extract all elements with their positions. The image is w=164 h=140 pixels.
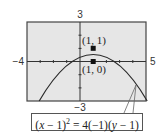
vertex-label: (1, 1) <box>82 34 106 47</box>
ymin-label: −3 <box>74 102 86 113</box>
xmax-label: 5 <box>150 56 156 67</box>
vertex-point <box>91 46 96 51</box>
xmin-label: −4 <box>13 56 25 67</box>
equation-box: (x − 1)2 = 4(−1)(y − 1) <box>31 113 143 131</box>
ymax-label: 3 <box>77 9 83 20</box>
focus-label: (1, 0) <box>82 63 106 76</box>
